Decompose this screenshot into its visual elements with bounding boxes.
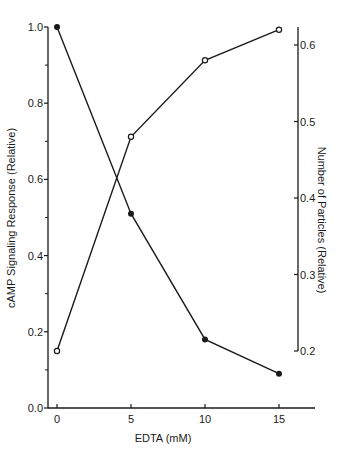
y-tick-label-right: 0.3 [300,269,315,281]
y-tick-label-left: 0.6 [28,173,43,185]
open-circle-marker [54,348,59,353]
plot-series [54,24,282,377]
y-axis-label-right: Number of Particles (Relative) [316,147,328,294]
x-tick-label: 5 [128,413,134,425]
y-tick-label-right: 0.6 [300,39,315,51]
camp-response-line [57,27,279,374]
y-tick-label-right: 0.5 [300,116,315,128]
y-tick-label-right: 0.2 [300,345,315,357]
particles-line [57,30,279,351]
filled-circle-marker [54,24,60,30]
y-tick-label-right: 0.4 [300,192,315,204]
y-tick-label-left: 0.8 [28,97,43,109]
y-tick-label-left: 0.2 [28,326,43,338]
y-tick-label-left: 0.0 [28,402,43,414]
x-axis-label: EDTA (mM) [135,432,192,444]
open-circle-marker [128,134,133,139]
x-tick-label: 0 [54,413,60,425]
open-circle-marker [202,58,207,63]
axes: 0.00.20.40.60.81.00510150.20.30.40.50.6 [28,21,316,425]
dual-axis-line-chart: 0.00.20.40.60.81.00510150.20.30.40.50.6 … [0,0,345,458]
y-tick-label-left: 1.0 [28,21,43,33]
open-circle-marker [276,27,281,32]
filled-circle-marker [202,336,208,342]
x-tick-label: 15 [273,413,285,425]
y-axis-label-left: cAMP Signaling Response (Relative) [5,128,17,308]
filled-circle-marker [276,371,282,377]
y-tick-label-left: 0.4 [28,250,43,262]
filled-circle-marker [128,211,134,217]
x-tick-label: 10 [199,413,211,425]
